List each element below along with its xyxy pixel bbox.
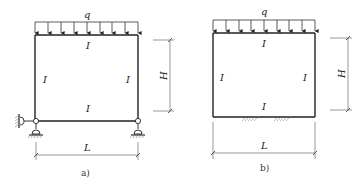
- left-column-label-b: I: [219, 72, 225, 83]
- right-column-label-b: I: [302, 72, 308, 83]
- height-label-a: H: [158, 71, 169, 81]
- load-label-b: q: [261, 6, 267, 17]
- height-label-b: H: [336, 69, 347, 79]
- caption-b: b): [260, 163, 269, 173]
- figure-b: q I I I I: [211, 6, 352, 173]
- bottom-beam-label-b: I: [261, 101, 267, 112]
- ground-hatch-b: [242, 118, 289, 121]
- length-label-b: L: [260, 140, 268, 151]
- right-column-label-a: I: [125, 74, 131, 85]
- top-beam-label-a: I: [85, 40, 91, 51]
- left-column-label-a: I: [42, 74, 48, 85]
- load-label-a: q: [84, 9, 90, 20]
- distributed-load-a: [35, 22, 138, 33]
- distributed-load-b: [213, 20, 315, 31]
- caption-a: a): [81, 168, 90, 178]
- structural-diagram: q I I I I: [0, 0, 362, 186]
- figure-a: q I I I I: [15, 9, 174, 178]
- bottom-beam-label-a: I: [85, 103, 91, 114]
- length-label-a: L: [83, 142, 91, 153]
- top-beam-label-b: I: [261, 38, 267, 49]
